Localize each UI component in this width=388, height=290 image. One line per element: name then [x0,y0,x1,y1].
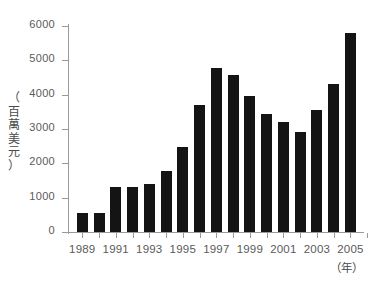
y-axis-title-char: 元 [6,146,22,160]
bar [278,122,289,232]
y-axis-tick-label: 5000 [29,53,55,64]
x-axis-tick-mark [267,233,268,238]
bar [244,96,255,232]
bar-chart-figure: （ 百 萬 美 元 ） 0100020003000400050006000 19… [0,0,388,290]
x-axis-tick-label: 1999 [237,243,263,255]
bar [261,114,272,232]
x-axis-tick-mark [82,233,83,238]
x-axis-tick-mark [233,233,234,238]
bar [94,213,105,232]
bar [127,187,138,232]
bar [177,147,188,232]
x-axis-tick-mark [300,233,301,238]
x-axis-tick-mark [166,233,167,238]
bar [311,110,322,232]
x-axis-tick-mark [200,233,201,238]
y-axis-title-char: （ [6,92,22,106]
x-axis-tick-mark [116,233,117,238]
x-axis-title: （年） [330,262,363,274]
x-axis-tick-label: 1989 [69,243,95,255]
y-axis-title-char: ） [6,160,22,174]
y-axis-title: （ 百 萬 美 元 ） [6,92,22,173]
y-axis-title-char: 美 [6,133,22,147]
x-axis-tick-mark [183,233,184,238]
x-axis-tick-mark [216,233,217,238]
x-axis-tick-mark [350,233,351,238]
x-axis-tick-label: 1997 [203,243,229,255]
x-axis-tick-mark [317,233,318,238]
plot-area [68,26,363,232]
bar [144,184,155,232]
bar [228,75,239,232]
bar [161,171,172,232]
bar [77,213,88,232]
y-axis-title-char: 百 [6,106,22,120]
y-axis-title-char: 萬 [6,119,22,133]
x-axis-tick-mark [283,233,284,238]
x-axis-tick-mark [149,233,150,238]
bar [345,33,356,232]
x-axis-tick-mark [99,233,100,238]
x-axis-tick-label: 1991 [103,243,129,255]
x-axis-tick-label: 2003 [304,243,330,255]
x-axis-tick-mark [133,233,134,238]
y-axis-tick-label: 0 [49,225,55,236]
x-axis-tick-mark [250,233,251,238]
y-axis-tick-mark [62,232,69,233]
x-axis-tick-label: 1995 [170,243,196,255]
y-axis-tick-label: 4000 [29,88,55,99]
x-axis-tick-label: 1993 [136,243,162,255]
bar [211,68,222,232]
bar [328,84,339,232]
y-axis-tick-label: 2000 [29,156,55,167]
x-axis-tick-label: 2001 [270,243,296,255]
bar [295,132,306,232]
x-axis-tick-mark [334,233,335,238]
bar [110,187,121,232]
bar [194,105,205,232]
x-axis-tick-mark [367,233,368,238]
y-axis-tick-label: 3000 [29,122,55,133]
y-axis-tick-label: 6000 [29,19,55,30]
x-axis-tick-label: 2005 [337,243,363,255]
y-axis-tick-label: 1000 [29,191,55,202]
